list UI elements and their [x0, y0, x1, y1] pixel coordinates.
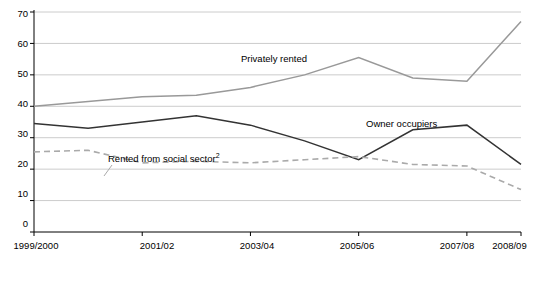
annotation-social-sector-text: Rented from social sector [108, 153, 216, 164]
x-axis-tick-1: 1999/2000 [0, 240, 72, 251]
annotation-owner-occupiers: Owner occupiers [366, 118, 437, 129]
x-axis-tick-5: 2007/08 [426, 240, 488, 251]
x-axis-tick-4: 2005/06 [326, 240, 388, 251]
annotation-leader-line [104, 165, 112, 176]
y-axis-tick-60: 60 [6, 38, 28, 49]
x-axis-tick-2: 2001/02 [126, 240, 188, 251]
y-axis-tick-20: 20 [6, 158, 28, 169]
x-axis-tick-6: 2008/09 [482, 240, 537, 251]
annotation-rented-from-social-sector: Rented from social sector2 [108, 152, 220, 164]
y-axis-tick-50: 50 [6, 68, 28, 79]
annotation-social-sector-footnote: 2 [216, 152, 220, 159]
x-axis-tick-3: 2003/04 [226, 240, 288, 251]
line-chart: 70 60 50 40 30 20 10 0 1999/2000 2001/02… [0, 0, 537, 285]
y-axis-tick-30: 30 [6, 128, 28, 139]
annotation-privately-rented: Privately rented [241, 53, 307, 64]
y-axis-tick-0: 0 [6, 218, 28, 229]
y-axis-tick-10: 10 [6, 188, 28, 199]
y-axis-tick-40: 40 [6, 98, 28, 109]
y-axis-tick-70: 70 [6, 8, 28, 19]
